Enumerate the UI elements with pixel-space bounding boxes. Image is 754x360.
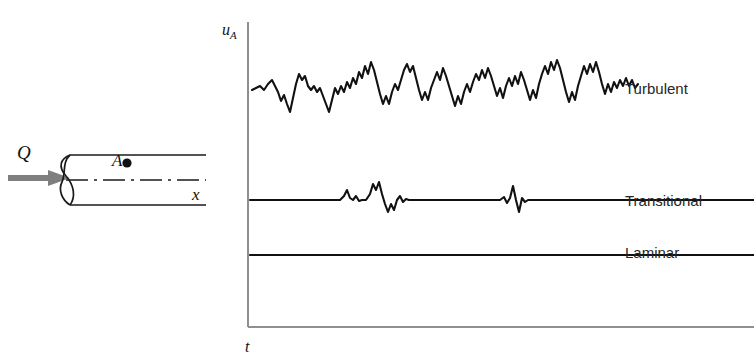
pipe-diagram — [8, 155, 206, 205]
point-a-marker-icon — [122, 158, 131, 167]
y-axis-label: uA — [222, 22, 237, 41]
x-axis-label: t — [245, 339, 249, 355]
figure-canvas — [0, 0, 754, 360]
trace-label-laminar: Laminar — [625, 245, 679, 260]
trace-label-turbulent: Turbulent — [625, 81, 688, 96]
trace-label-transitional: Transitional — [625, 193, 702, 208]
trace-turbulent — [252, 60, 638, 112]
y-axis-label-subscript: A — [230, 29, 237, 41]
turbulent-waveform — [252, 60, 638, 112]
figure-root: Q A x uA t Turbulent Transitional Lamina… — [0, 0, 754, 360]
pipe-x-axis-label: x — [192, 186, 200, 203]
y-axis-label-base: u — [222, 21, 230, 38]
point-a-label: A — [112, 152, 122, 169]
plot-axes — [248, 22, 754, 327]
flow-rate-label: Q — [17, 143, 31, 162]
